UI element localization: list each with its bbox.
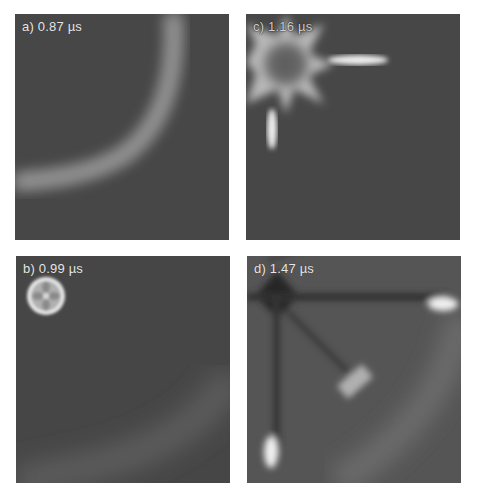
panel-b-image: b) 0.99 µs [16,256,230,483]
panel-d-image: d) 1.47 µs [247,256,461,483]
panel-b-graphic [16,256,230,483]
panel-d-label: d) 1.47 µs [254,261,314,276]
panel-c-label: c) 1.16 µs [253,19,312,34]
panel-a-image: a) 0.87 µs [15,14,229,240]
panel-a-label: a) 0.87 µs [22,19,82,34]
panel-c-graphic [246,14,460,240]
panel-c-image: c) 1.16 µs [246,14,460,240]
panel-b-label: b) 0.99 µs [23,261,83,276]
panel-a-graphic [15,14,229,240]
panel-d-graphic [247,256,461,483]
